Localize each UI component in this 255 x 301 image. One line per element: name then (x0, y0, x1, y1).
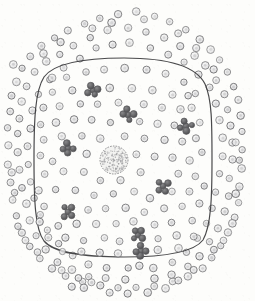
ribosome-granule (7, 108, 14, 115)
ribosome-granule (181, 79, 187, 85)
ribosome-granule (232, 139, 239, 146)
ribosome-granule (219, 153, 226, 160)
ribosome-granule (149, 86, 157, 94)
ribosome-granule (239, 147, 245, 153)
ribosome-granule (81, 21, 88, 28)
ribosome-granule (193, 44, 200, 51)
ribosome-granule (141, 16, 148, 23)
ribosome-granule (141, 135, 148, 142)
ribosome-granule (210, 246, 217, 253)
ribosome-granule (57, 38, 64, 45)
ribosome-granule (177, 43, 184, 50)
ribosome-granule (79, 133, 86, 140)
ribosome-granule (52, 186, 58, 192)
ribosome-granule (19, 184, 26, 191)
nucleolus-layer (100, 146, 128, 174)
ribosome-granule (14, 148, 21, 155)
ribosome-granule (109, 41, 116, 48)
ribosome-granule (15, 223, 22, 230)
ribosome-granule (80, 284, 88, 292)
ribosome-granule (136, 118, 142, 124)
ribosome-granule (196, 253, 204, 261)
ribosome-granule (144, 289, 152, 297)
ribosome-granule (201, 183, 207, 189)
ribosome-granule (115, 99, 122, 106)
ribosome-granule (228, 219, 236, 227)
ribosome-granule (151, 153, 158, 160)
ribosome-granule (37, 211, 44, 218)
ribosome-granule (110, 191, 116, 197)
ribosome-granule (94, 101, 100, 107)
ribosome-granule (49, 89, 55, 95)
ribosome-granule (103, 264, 110, 271)
ribosome-granule (199, 149, 206, 156)
ribosome-granule (40, 104, 47, 111)
ribosome-granule (115, 285, 122, 292)
ribosome-granule (13, 213, 19, 219)
ribosome-granule (83, 150, 91, 158)
ribosome-granule (117, 177, 124, 184)
ribosome-granule (140, 101, 147, 108)
ribosome-granule (158, 104, 165, 111)
ribosome-granule (227, 122, 234, 129)
ribosome-granule (206, 239, 212, 245)
ribosome-granule (26, 217, 33, 224)
ribosome-granule (56, 103, 63, 110)
micrograph-figure (0, 0, 255, 301)
ribosome-granule (235, 96, 242, 103)
ribosome-granule (44, 227, 50, 233)
ribosome-granule (219, 134, 227, 142)
ribosome-granule (27, 179, 34, 186)
ribosome-granule (101, 235, 108, 242)
ribosome-granule (8, 92, 15, 99)
ribosome-granule (104, 26, 112, 34)
ribosome-granule (80, 237, 86, 243)
ribosome-granule (19, 65, 25, 71)
ribosome-granule (96, 15, 103, 22)
ribosome-granule (42, 58, 50, 66)
ribosome-granule (161, 136, 168, 143)
ribosome-granule (171, 122, 178, 129)
ribosome-granule (85, 261, 92, 268)
ribosome-granule (36, 218, 43, 225)
ribosome-granule (8, 169, 15, 176)
ribosome-granule (121, 133, 128, 140)
ribosome-granule (106, 84, 114, 92)
ribosome-granule (169, 259, 176, 266)
ribosome-granule (45, 234, 52, 241)
ribosome-granule (225, 193, 232, 200)
ribosome-granule (72, 187, 79, 194)
ribosome-granule (68, 283, 75, 290)
ribosome-granule (179, 138, 186, 145)
ribosome-granule (168, 271, 175, 278)
ribosome-granule (116, 238, 123, 245)
ribosome-granule (132, 8, 140, 16)
ribosome-granule (58, 267, 65, 274)
ribosome-granule (87, 34, 93, 40)
ribosome-granule (226, 175, 232, 181)
ribosome-granule (122, 204, 130, 212)
ribosome-granule (27, 125, 34, 132)
ribosome-granule (181, 59, 187, 65)
ribosome-granule (175, 30, 182, 37)
ribosome-granule (124, 290, 131, 297)
ribosome-granule (196, 200, 203, 207)
ribosome-granule (207, 46, 215, 54)
ribosome-granule (212, 100, 219, 107)
ribosome-granule (189, 217, 196, 224)
ribosome-granule (221, 208, 228, 215)
ribosome-granule (37, 121, 43, 127)
ribosome-granule (208, 254, 215, 261)
ribosome-granule (80, 168, 87, 175)
ribosome-granule (38, 42, 45, 49)
ribosome-granule (161, 205, 168, 212)
ribosome-granule (96, 249, 103, 256)
ribosome-granule (151, 275, 159, 283)
ribosome-granule (137, 169, 144, 176)
ribosome-granule (168, 188, 175, 195)
ribosome-granule (69, 87, 76, 94)
ribosome-granule (42, 246, 49, 253)
ribosome-granule (201, 62, 209, 70)
ribosome-granule (230, 83, 237, 90)
ribosome-granule (179, 203, 185, 209)
